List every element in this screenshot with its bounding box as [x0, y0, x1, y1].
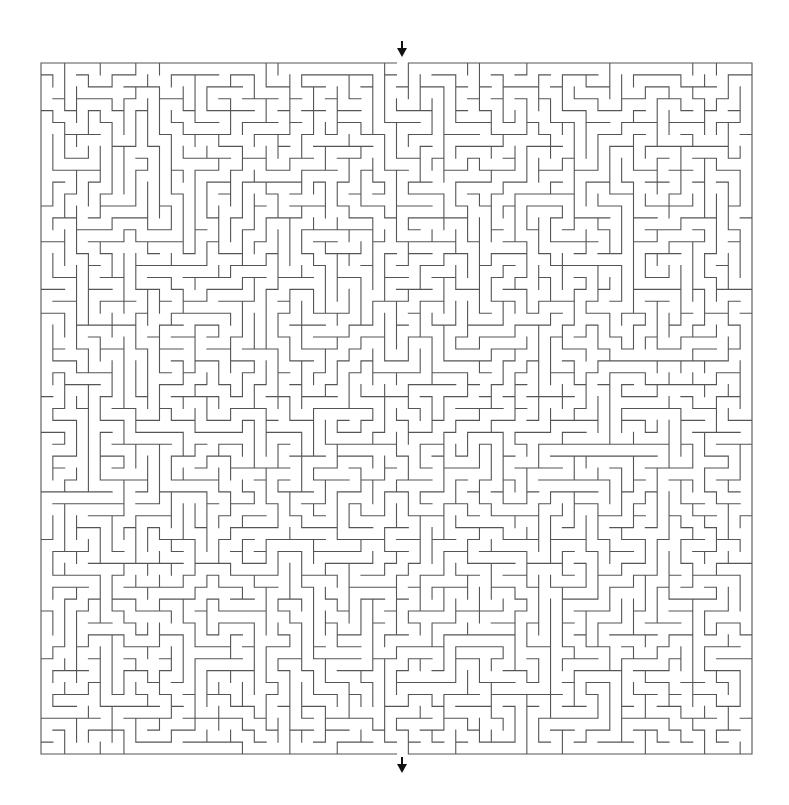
exit-arrow-icon	[397, 757, 407, 773]
entrance-arrow-icon	[397, 41, 407, 57]
maze-walls	[41, 63, 752, 754]
maze-puzzle	[0, 0, 789, 805]
maze-grid	[0, 0, 789, 805]
arrow-head	[397, 764, 407, 773]
arrow-head	[397, 48, 407, 57]
